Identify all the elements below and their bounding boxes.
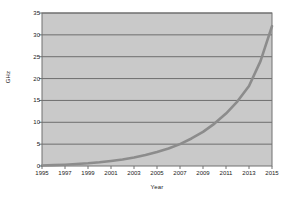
chart-container: GHz 05101520253035 199519971999200120032… [0, 0, 282, 201]
y-tick-label: 0 [24, 163, 40, 169]
x-tick-label: 2003 [122, 170, 146, 177]
x-axis-tick-labels: 1995199719992001200320052007200920112013… [0, 170, 282, 182]
y-tick-label: 25 [24, 54, 40, 60]
x-tick-label: 1999 [76, 170, 100, 177]
y-tick-label: 15 [24, 97, 40, 103]
y-tick-label: 5 [24, 141, 40, 147]
x-tick-label: 2007 [168, 170, 192, 177]
x-axis-title: Year [42, 184, 272, 190]
x-tick-label: 2013 [237, 170, 261, 177]
x-tick-label: 1995 [30, 170, 54, 177]
y-tick-label: 35 [24, 10, 40, 16]
y-tick-label: 10 [24, 119, 40, 125]
x-tick-label: 2005 [145, 170, 169, 177]
y-tick-label: 30 [24, 32, 40, 38]
x-tick-label: 2001 [99, 170, 123, 177]
x-tick-label: 2015 [260, 170, 282, 177]
x-tick-label: 2011 [214, 170, 238, 177]
plot-background [42, 13, 272, 166]
y-tick-label: 20 [24, 76, 40, 82]
x-tick-label: 1997 [53, 170, 77, 177]
y-axis-title: GHz [5, 57, 11, 97]
x-tick-label: 2009 [191, 170, 215, 177]
